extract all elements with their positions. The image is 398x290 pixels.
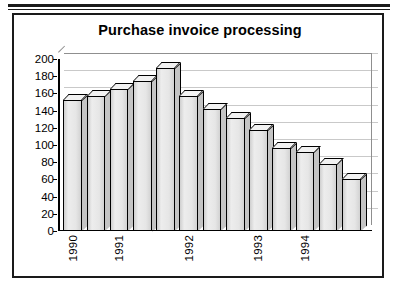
y-axis-tick-label: 160 xyxy=(35,88,54,98)
x-axis-tick-label: 1991 xyxy=(113,235,125,261)
bar-front-face xyxy=(272,148,291,231)
y-axis-tick xyxy=(53,145,57,146)
back-wall-top-edge xyxy=(64,53,372,54)
bar-column xyxy=(156,62,175,231)
y-axis-tick xyxy=(53,111,57,112)
bar-front-face xyxy=(63,100,82,231)
top-rule-thin xyxy=(8,9,390,10)
top-rule xyxy=(8,4,390,7)
bar-front-face xyxy=(226,118,245,231)
bar-front-face xyxy=(110,89,129,231)
bar-column xyxy=(249,124,268,231)
bar-front-face xyxy=(133,81,152,232)
y-axis-tick-label: 120 xyxy=(35,123,54,133)
back-wall-diagonal xyxy=(58,46,71,59)
y-axis-tick xyxy=(53,197,57,198)
y-axis-tick xyxy=(53,231,57,232)
x-axis-line xyxy=(58,230,372,232)
y-axis-tick-label: 140 xyxy=(35,106,54,116)
bar-column xyxy=(110,83,129,231)
bar-front-face xyxy=(342,179,361,231)
y-axis-tick-label: 200 xyxy=(35,54,54,64)
figure-page: Purchase invoice processing 020406080100… xyxy=(0,0,398,290)
bar-side-face xyxy=(361,174,367,231)
bar-column xyxy=(272,142,291,231)
y-axis-tick xyxy=(53,93,57,94)
y-axis-tick xyxy=(53,128,57,129)
x-axis: 19901991199219931994 xyxy=(58,233,372,279)
x-axis-tick-label: 1990 xyxy=(67,235,79,261)
bar-column xyxy=(203,103,222,231)
x-axis-tick-label: 1994 xyxy=(299,235,311,261)
bar-column xyxy=(63,94,82,231)
bar-front-face xyxy=(296,152,315,231)
bar-front-face xyxy=(203,109,222,231)
bar-series xyxy=(58,59,372,231)
bar-front-face xyxy=(87,96,106,231)
chart-frame: Purchase invoice processing 020406080100… xyxy=(12,13,384,278)
bar-front-face xyxy=(249,130,268,231)
bar-front-face xyxy=(319,164,338,231)
y-axis-line xyxy=(58,59,60,231)
x-axis-tick-label: 1992 xyxy=(183,235,195,261)
plot-area xyxy=(58,59,372,231)
y-axis-tick xyxy=(53,214,57,215)
y-axis-tick xyxy=(53,162,57,163)
plot-wrapper: 020406080100120140160180200 199019911992… xyxy=(14,15,386,280)
y-axis-tick xyxy=(53,59,57,60)
bar-column xyxy=(319,158,338,231)
bar-column xyxy=(296,146,315,231)
bar-column xyxy=(133,75,152,232)
y-axis-tick-label: 100 xyxy=(35,140,54,150)
y-axis: 020406080100120140160180200 xyxy=(14,15,58,280)
y-axis-tick-label: 180 xyxy=(35,71,54,81)
y-axis-tick xyxy=(53,179,57,180)
bar-column xyxy=(342,173,361,231)
bar-front-face xyxy=(156,68,175,231)
x-axis-tick-label: 1993 xyxy=(252,235,264,261)
bar-column xyxy=(179,90,198,231)
y-axis-tick xyxy=(53,76,57,77)
bar-column xyxy=(226,112,245,231)
bar-column xyxy=(87,90,106,231)
bar-front-face xyxy=(179,96,198,231)
